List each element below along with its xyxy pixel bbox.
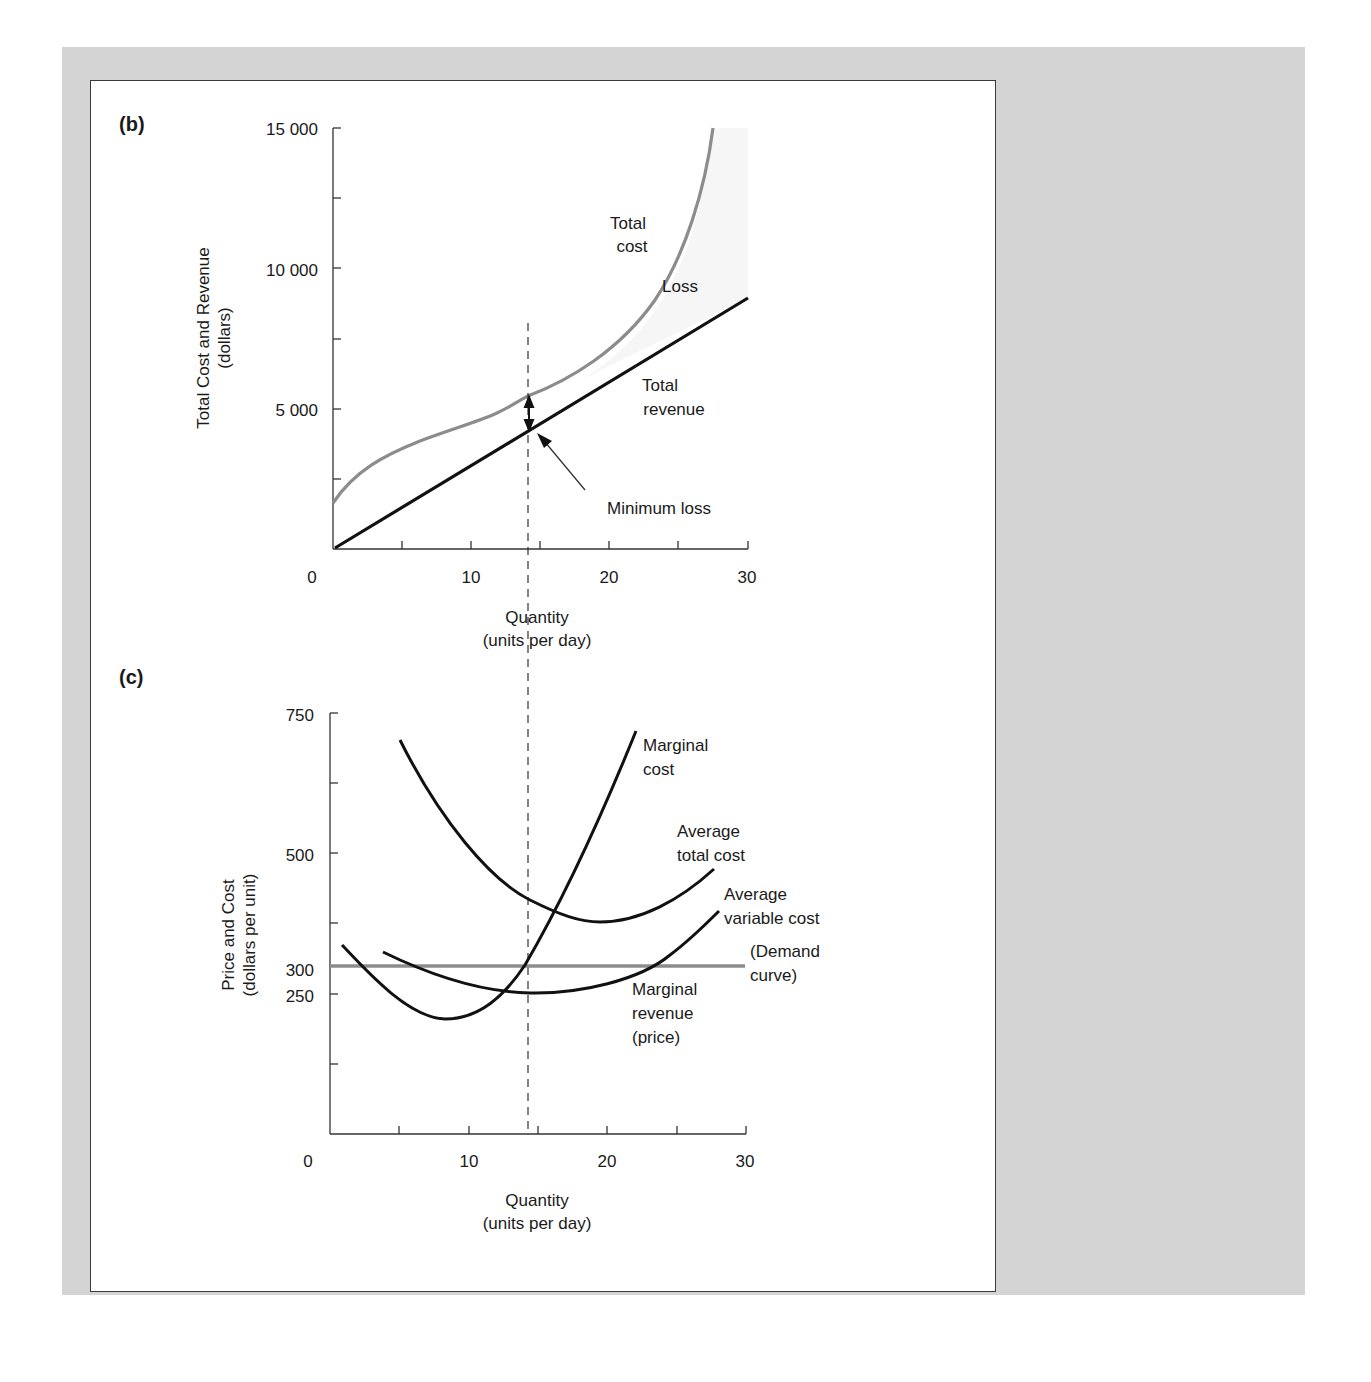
mr-label-line2: revenue: [632, 1004, 693, 1023]
atc-label-line2: total cost: [677, 846, 745, 865]
panel-c-axes: [330, 713, 746, 1134]
mr-label-line3: (price): [632, 1028, 680, 1047]
panel-b: (b) Total Cost and Revenue (dollars) 15 …: [119, 113, 756, 1130]
marginal-cost-curve: [342, 731, 636, 1019]
demand-label-line2: curve): [750, 966, 797, 985]
y-tick-5000: 5 000: [275, 401, 318, 420]
panel-c-y-axis-title: Price and Cost (dollars per unit): [219, 874, 259, 997]
marginal-cost-label-line2: cost: [643, 760, 674, 779]
mr-label-line1: Marginal: [632, 980, 697, 999]
total-revenue-label-line2: revenue: [643, 400, 704, 419]
total-revenue-label-line1: Total: [642, 376, 678, 395]
x-axis-title-line2: (units per day): [483, 1214, 592, 1233]
loss-label: Loss: [662, 277, 698, 296]
x-axis-title-line1: Quantity: [505, 608, 569, 627]
panel-c: (c) Price and Cost (dollars per unit) 75…: [119, 666, 820, 1233]
demand-label-line1: (Demand: [750, 942, 820, 961]
total-cost-label-line1: Total: [610, 214, 646, 233]
minimum-loss-label: Minimum loss: [607, 499, 711, 518]
x-tick-0: 0: [307, 568, 316, 587]
x-axis-title-line2: (units per day): [483, 631, 592, 650]
x-tick-10: 10: [460, 1152, 479, 1171]
y-axis-title-line1: Price and Cost: [219, 879, 238, 991]
x-tick-20: 20: [598, 1152, 617, 1171]
total-cost-label-line2: cost: [616, 237, 647, 256]
avc-label-line2: variable cost: [724, 909, 820, 928]
y-tick-250: 250: [286, 987, 314, 1006]
panel-b-axes: [333, 128, 748, 549]
y-tick-300: 300: [286, 961, 314, 980]
x-tick-30: 30: [738, 568, 757, 587]
x-tick-30: 30: [736, 1152, 755, 1171]
avc-label-line1: Average: [724, 885, 787, 904]
y-tick-500: 500: [286, 846, 314, 865]
atc-label-line1: Average: [677, 822, 740, 841]
x-tick-10: 10: [462, 568, 481, 587]
marginal-cost-label-line1: Marginal: [643, 736, 708, 755]
y-axis-title-line2: (dollars): [215, 307, 234, 368]
y-axis-title-line1: Total Cost and Revenue: [194, 247, 213, 428]
loss-gap-arrow: [525, 397, 533, 430]
y-tick-15000: 15 000: [266, 120, 318, 139]
panel-c-label: (c): [119, 666, 143, 688]
y-tick-10000: 10 000: [266, 261, 318, 280]
figure-svg: (b) Total Cost and Revenue (dollars) 15 …: [0, 0, 1371, 1382]
y-tick-750: 750: [286, 706, 314, 725]
y-axis-title-line2: (dollars per unit): [240, 874, 259, 997]
x-axis-title-line1: Quantity: [505, 1191, 569, 1210]
loss-region: [550, 128, 748, 395]
x-tick-0: 0: [303, 1152, 312, 1171]
x-tick-20: 20: [600, 568, 619, 587]
panel-b-label: (b): [119, 113, 145, 135]
panel-b-y-axis-title: Total Cost and Revenue (dollars): [194, 247, 234, 428]
minimum-loss-pointer-arrow: [537, 433, 585, 490]
